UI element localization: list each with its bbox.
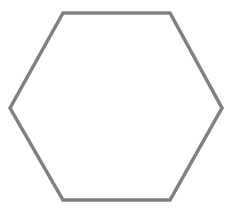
figure-canvas	[0, 0, 238, 223]
hexagon-shape	[10, 13, 222, 200]
hexagon-svg	[0, 0, 238, 223]
